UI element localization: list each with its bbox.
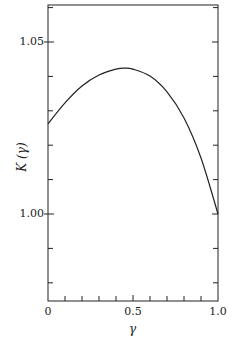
y-axis-title: K (γ) [15,137,29,177]
line-chart [0,0,235,337]
x-tick-label-1-0: 1.0 [203,306,233,317]
x-tick-label-0-5: 0.5 [118,306,148,317]
y-tick-label-1-05: 1.05 [4,36,44,47]
y-tick-label-1-00: 1.00 [4,208,44,219]
x-axis-ticks [65,295,201,301]
data-line-k-gamma [48,68,218,214]
x-tick-label-0: 0 [33,306,63,317]
y-axis-ticks [44,8,218,283]
x-axis-title: γ [129,322,136,336]
plot-frame [48,5,218,301]
